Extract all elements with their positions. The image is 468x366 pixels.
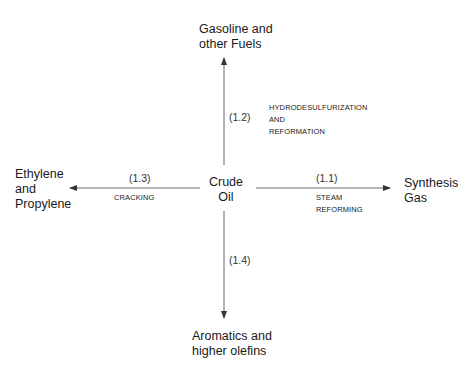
crude-oil-line1: Crude	[204, 175, 248, 190]
process-cracking: CRACKING	[114, 192, 154, 204]
node-aromatics-olefins: Aromatics and higher olefins	[192, 329, 272, 359]
node-ethylene-propylene: Ethylene and Propylene	[15, 167, 71, 212]
synthesis-line2: Gas	[404, 191, 458, 206]
ethylene-line2: and	[15, 182, 71, 197]
synthesis-line1: Synthesis	[404, 176, 458, 191]
process-id-1-1: (1.1)	[316, 172, 338, 184]
gasoline-line2: other Fuels	[199, 37, 273, 52]
aromatics-line2: higher olefins	[192, 344, 272, 359]
process-1-3-line1: CRACKING	[114, 192, 154, 204]
node-synthesis-gas: Synthesis Gas	[404, 176, 458, 206]
process-1-1-line1: STEAM	[316, 192, 363, 204]
process-steam-reforming: STEAM REFORMING	[316, 192, 363, 216]
process-hydrodesulfurization: HYDRODESULFURIZATION AND REFORMATION	[269, 102, 368, 138]
process-1-2-line3: REFORMATION	[269, 126, 368, 138]
process-1-2-line1: HYDRODESULFURIZATION	[269, 102, 368, 114]
process-1-1-line2: REFORMING	[316, 204, 363, 216]
node-gasoline-fuels: Gasoline and other Fuels	[199, 22, 273, 52]
gasoline-line1: Gasoline and	[199, 22, 273, 37]
aromatics-line1: Aromatics and	[192, 329, 272, 344]
ethylene-line3: Propylene	[15, 197, 71, 212]
node-crude-oil: Crude Oil	[204, 175, 248, 205]
process-1-2-line2: AND	[269, 114, 368, 126]
process-id-1-3: (1.3)	[129, 172, 151, 184]
process-id-1-4: (1.4)	[229, 254, 251, 266]
ethylene-line1: Ethylene	[15, 167, 71, 182]
crude-oil-line2: Oil	[204, 190, 248, 205]
process-id-1-2: (1.2)	[229, 111, 251, 123]
